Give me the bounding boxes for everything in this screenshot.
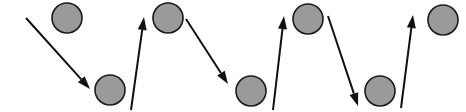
node-circle-node-3 bbox=[153, 3, 183, 33]
arrow-shaft bbox=[273, 29, 282, 110]
node-circle-node-6 bbox=[365, 76, 395, 106]
node-circle-node-4 bbox=[236, 76, 266, 106]
arrow-head-icon bbox=[350, 92, 359, 106]
arrow-down-right bbox=[186, 19, 228, 84]
arrow-shaft bbox=[131, 30, 142, 110]
diagram-svg bbox=[0, 0, 466, 112]
arrows-layer bbox=[26, 15, 416, 110]
arrow-up-right bbox=[401, 15, 416, 108]
arrow-down-right bbox=[328, 16, 358, 106]
arrow-up-right bbox=[131, 17, 147, 110]
node-circle-node-7 bbox=[428, 5, 458, 35]
node-circle-node-5 bbox=[293, 4, 323, 34]
arrow-head-icon bbox=[217, 71, 228, 84]
arrow-head-icon bbox=[407, 15, 416, 28]
arrow-head-icon bbox=[138, 17, 147, 30]
node-circle-node-2 bbox=[95, 75, 125, 105]
diagram-canvas bbox=[0, 0, 466, 112]
arrow-head-icon bbox=[278, 16, 287, 29]
arrow-up-right bbox=[273, 16, 287, 110]
node-circle-node-1 bbox=[52, 3, 82, 33]
arrow-shaft bbox=[401, 28, 411, 108]
nodes-layer bbox=[52, 3, 458, 106]
arrow-shaft bbox=[186, 19, 221, 73]
arrow-shaft bbox=[328, 16, 354, 94]
